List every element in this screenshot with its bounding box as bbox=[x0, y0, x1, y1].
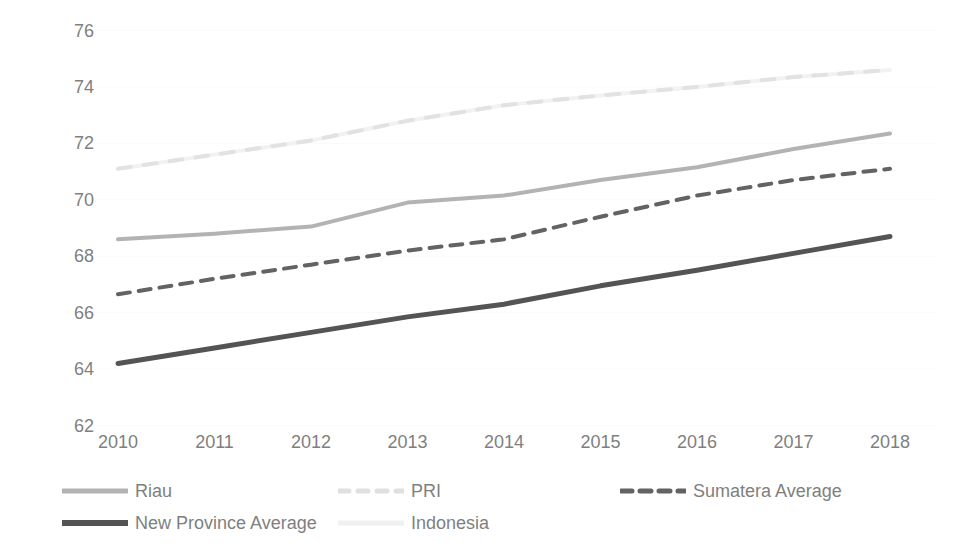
x-tick-2010: 2010 bbox=[98, 432, 138, 453]
chart-legend: RiauPRISumatera AverageNew Province Aver… bbox=[0, 470, 954, 552]
solid-line-swatch bbox=[62, 484, 128, 498]
legend-label: Indonesia bbox=[411, 513, 489, 534]
legend-item-riau[interactable]: Riau bbox=[62, 478, 172, 504]
solid-line-swatch bbox=[338, 516, 404, 530]
y-tick-68: 68 bbox=[74, 246, 94, 267]
legend-item-new-province-average[interactable]: New Province Average bbox=[62, 510, 317, 536]
x-tick-2013: 2013 bbox=[387, 432, 427, 453]
legend-label: New Province Average bbox=[135, 513, 317, 534]
x-tick-2012: 2012 bbox=[291, 432, 331, 453]
legend-item-sumatera-average[interactable]: Sumatera Average bbox=[620, 478, 842, 504]
series-line-sumatera-average bbox=[118, 169, 890, 295]
dashed-line-swatch bbox=[338, 484, 404, 498]
solid-line-swatch bbox=[62, 516, 128, 530]
x-tick-2018: 2018 bbox=[870, 432, 910, 453]
x-tick-2014: 2014 bbox=[484, 432, 524, 453]
line-chart: Index 7674727068666462 20102011201220132… bbox=[0, 0, 954, 552]
y-axis-tick-labels: 7674727068666462 bbox=[48, 0, 94, 440]
series-line-pri bbox=[118, 70, 890, 169]
y-tick-76: 76 bbox=[74, 20, 94, 41]
series-line-riau bbox=[118, 133, 890, 239]
legend-item-indonesia[interactable]: Indonesia bbox=[338, 510, 489, 536]
y-tick-66: 66 bbox=[74, 302, 94, 323]
y-tick-64: 64 bbox=[74, 359, 94, 380]
y-tick-74: 74 bbox=[74, 76, 94, 97]
dashed-line-swatch bbox=[620, 484, 686, 498]
legend-label: Sumatera Average bbox=[693, 481, 842, 502]
x-tick-2011: 2011 bbox=[195, 432, 234, 453]
x-axis-tick-labels: 201020112012201320142015201620172018 bbox=[0, 432, 954, 464]
series-line-new-province-average bbox=[118, 236, 890, 363]
x-tick-2017: 2017 bbox=[773, 432, 813, 453]
legend-item-pri[interactable]: PRI bbox=[338, 478, 441, 504]
x-tick-2015: 2015 bbox=[580, 432, 620, 453]
y-tick-70: 70 bbox=[74, 189, 94, 210]
x-tick-2016: 2016 bbox=[677, 432, 717, 453]
legend-label: Riau bbox=[135, 481, 172, 502]
series-line-indonesia bbox=[118, 70, 890, 169]
y-tick-72: 72 bbox=[74, 133, 94, 154]
legend-label: PRI bbox=[411, 481, 441, 502]
